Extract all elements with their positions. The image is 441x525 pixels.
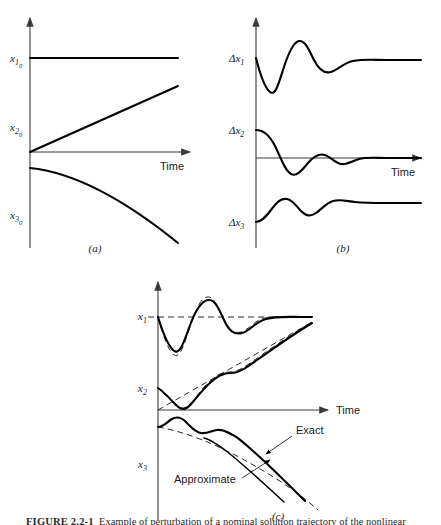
panel-c-time-label: Time: [336, 404, 360, 416]
curve-x3-exact: [158, 417, 305, 501]
panel-b: Δx1 Δx2 Δx3 Time (b): [215, 0, 441, 265]
panel-a-label-x2: x20: [9, 121, 23, 138]
annotation-approximate: Approximate: [174, 473, 236, 485]
panel-c-label-x3: x3: [137, 458, 147, 473]
figure-caption-text: FIGURE 2.2-1 Example of perturbation of …: [0, 516, 441, 525]
panel-c-label-x2: x2: [137, 382, 147, 397]
panel-b-letter: (b): [337, 242, 350, 255]
curve-delta-x3: [256, 199, 421, 222]
curve-x1-exact: [158, 300, 312, 352]
panel-b-time-label: Time: [391, 166, 415, 178]
panel-c-label-x1: x1: [137, 310, 147, 325]
figure-caption-label: FIGURE 2.2-1: [26, 516, 94, 525]
panel-a: x10 x20 x30 Time (a): [0, 0, 215, 265]
curve-x3-nominal: [30, 168, 178, 243]
figure-caption: FIGURE 2.2-1 Example of perturbation of …: [0, 516, 441, 525]
panel-a-letter: (a): [89, 242, 102, 255]
panel-a-time-label: Time: [160, 160, 184, 172]
approximate-leader-line: [242, 460, 270, 478]
curve-x2-nominal: [30, 86, 178, 152]
curve-x2-approximate: [158, 322, 312, 410]
curve-delta-x1: [256, 41, 421, 93]
panel-a-label-x1: x10: [9, 52, 23, 69]
figure-caption-body: Example of perturbation of a nominal sol…: [99, 516, 406, 525]
exact-leader-line: [266, 436, 292, 454]
figure-root: x10 x20 x30 Time (a) Δx1 Δx2 Δx3 Time (b…: [0, 0, 441, 525]
annotation-exact: Exact: [296, 424, 324, 436]
panel-b-label-dx3: Δx3: [228, 216, 244, 231]
panel-a-label-x3: x30: [9, 209, 23, 226]
panel-b-label-dx1: Δx1: [228, 52, 244, 67]
panel-c: Exact Approximate x1 x2 x3 Time (c): [100, 262, 400, 525]
panel-b-label-dx2: Δx2: [228, 124, 244, 139]
